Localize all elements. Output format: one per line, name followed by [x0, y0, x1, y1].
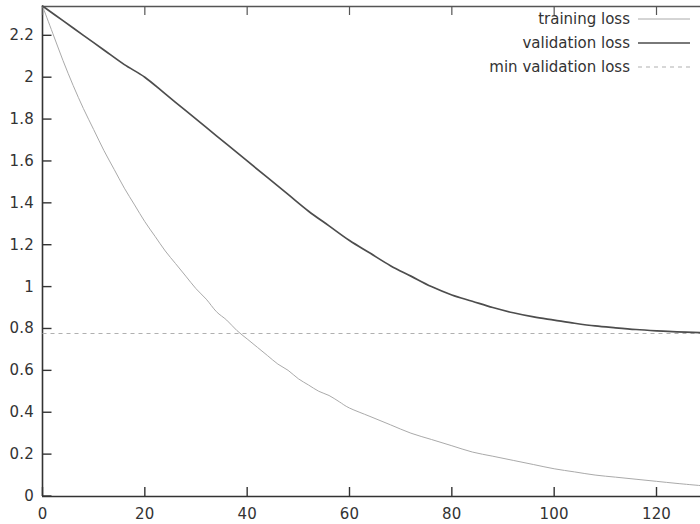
y-tick-label: 1.4	[0, 194, 34, 212]
chart-container: 00.20.40.60.811.21.41.61.822.2 020406080…	[0, 0, 700, 524]
y-tick-label: 1	[0, 278, 34, 296]
x-tick-label: 100	[540, 505, 569, 523]
y-tick-label: 0.2	[0, 445, 34, 463]
legend-label-validation-loss: validation loss	[522, 34, 630, 52]
y-tick-label: 1.6	[0, 152, 34, 170]
plot-area	[0, 0, 700, 524]
data-series	[43, 6, 700, 486]
y-tick-label: 2.2	[0, 26, 34, 44]
y-tick-label: 0.6	[0, 361, 34, 379]
legend-item: validation loss	[522, 32, 690, 53]
y-tick-label: 2	[0, 68, 34, 86]
legend-swatch-validation-loss	[638, 37, 690, 49]
legend-swatch-min-validation-loss	[638, 61, 690, 73]
y-tick-label: 1.2	[0, 236, 34, 254]
legend-item: training loss	[538, 8, 690, 29]
chart-legend: training loss validation loss min valida…	[489, 8, 690, 77]
axis-lines	[42, 6, 700, 497]
y-tick-label: 0.8	[0, 319, 34, 337]
x-tick-label: 20	[135, 505, 155, 523]
x-axis-ticks	[43, 6, 657, 496]
legend-swatch-training-loss	[638, 13, 690, 25]
y-axis-ticks	[43, 35, 52, 496]
series-line-training-loss	[43, 6, 700, 486]
x-tick-label: 40	[237, 505, 257, 523]
legend-item: min validation loss	[489, 56, 690, 77]
x-tick-label: 0	[38, 505, 48, 523]
y-tick-label: 1.8	[0, 110, 34, 128]
x-tick-label: 80	[442, 505, 462, 523]
y-tick-label: 0.4	[0, 403, 34, 421]
x-tick-label: 60	[340, 505, 360, 523]
y-tick-label: 0	[0, 487, 34, 505]
x-tick-label: 120	[642, 505, 671, 523]
legend-label-training-loss: training loss	[538, 10, 630, 28]
legend-label-min-validation-loss: min validation loss	[489, 58, 630, 76]
